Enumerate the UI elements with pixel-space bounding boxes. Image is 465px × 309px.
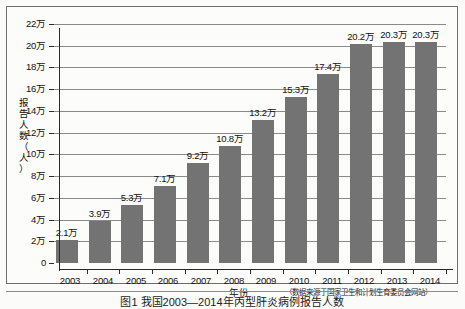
figure-caption: 图1 我国2003—2014年丙型肝炎病例报告人数 [6, 295, 458, 309]
y-tick-label: 4万 [2, 215, 46, 225]
bar [89, 221, 111, 263]
y-tick-label: 10万 [2, 149, 46, 159]
gridline [54, 24, 446, 25]
bar-value-label: 15.3万 [273, 85, 319, 95]
bar [285, 97, 307, 263]
x-tick-label: 2014 [410, 275, 450, 286]
y-tick-label: 6万 [2, 193, 46, 203]
y-tick-mark [49, 198, 54, 199]
bar-value-label: 5.3万 [109, 193, 155, 203]
bar [415, 42, 437, 263]
y-tick-label: 14万 [2, 106, 46, 116]
bar-value-label: 13.2万 [240, 108, 286, 118]
bar [219, 146, 241, 263]
bar [252, 120, 274, 263]
y-tick-mark [49, 176, 54, 177]
bar-value-label: 10.8万 [207, 134, 253, 144]
y-tick-mark [49, 67, 54, 68]
y-tick-mark [49, 24, 54, 25]
bar-value-label: 7.1万 [142, 174, 188, 184]
bar-value-label: 2.1万 [44, 228, 90, 238]
bar [350, 44, 372, 263]
y-tick-label: 0 [2, 258, 46, 268]
bar [383, 42, 405, 263]
caption-divider [6, 291, 458, 292]
y-tick-mark [49, 111, 54, 112]
y-axis-line [59, 28, 60, 271]
chart-frame: 报 告 人 数 （ 人 ） 02万4万6万8万10万12万14万16万18万20… [6, 6, 458, 284]
y-tick-label: 16万 [2, 84, 46, 94]
bar-value-label: 3.9万 [77, 209, 123, 219]
y-tick-label: 12万 [2, 128, 46, 138]
y-tick-label: 8万 [2, 171, 46, 181]
bar [317, 74, 339, 263]
bar-value-label: 20.3万 [403, 30, 449, 40]
y-tick-label: 18万 [2, 62, 46, 72]
y-tick-mark [49, 263, 54, 264]
y-tick-label: 2万 [2, 236, 46, 246]
y-tick-mark [49, 220, 54, 221]
y-tick-mark [49, 46, 54, 47]
bar-value-label: 17.4万 [305, 62, 351, 72]
bar [121, 205, 143, 263]
bar-value-label: 9.2万 [175, 151, 221, 161]
y-tick-mark [49, 89, 54, 90]
bar [154, 186, 176, 263]
y-tick-label: 20万 [2, 41, 46, 51]
bar [187, 163, 209, 263]
x-axis-line [59, 269, 453, 270]
y-tick-mark [49, 241, 54, 242]
y-tick-mark [49, 133, 54, 134]
figure-container: 报 告 人 数 （ 人 ） 02万4万6万8万10万12万14万16万18万20… [0, 0, 465, 309]
y-tick-label: 22万 [2, 19, 46, 29]
y-tick-mark [49, 154, 54, 155]
